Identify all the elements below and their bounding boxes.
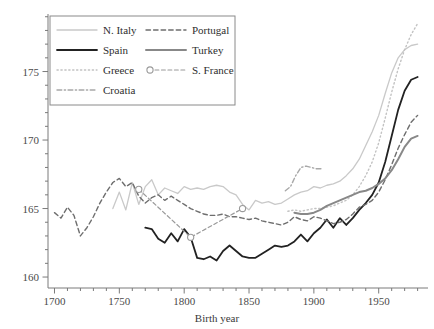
series-line: [54, 115, 417, 236]
x-tick-label: 1750: [108, 295, 131, 307]
legend-label: S. France: [192, 64, 234, 76]
x-axis-title: Birth year: [195, 312, 240, 324]
chart-container: 160165170175 170017501800185019001950 N.…: [0, 0, 434, 329]
legend-label: Portugal: [192, 24, 229, 36]
y-tick-label: 175: [23, 66, 40, 78]
x-tick-label: 1950: [368, 295, 391, 307]
legend-marker-icon: [147, 67, 153, 73]
x-tick-label: 1800: [173, 295, 196, 307]
series-greece: [288, 24, 418, 212]
legend-label: Turkey: [192, 44, 224, 56]
x-tick-label: 1850: [238, 295, 261, 307]
line-chart: 160165170175 170017501800185019001950 N.…: [0, 0, 434, 329]
y-tick-label: 160: [23, 271, 40, 283]
legend-label: Spain: [103, 44, 129, 56]
legend-label: Greece: [103, 64, 134, 76]
chart-legend: N. ItalyPortugalSpainTurkeyGreeceS. Fran…: [50, 16, 235, 105]
series-portugal: [54, 115, 417, 236]
y-tick-label: 165: [23, 203, 40, 215]
x-axis: 170017501800185019001950: [43, 288, 428, 307]
legend-label: Croatia: [103, 84, 135, 96]
y-tick-label: 170: [23, 134, 40, 146]
x-tick-label: 1700: [43, 295, 66, 307]
legend-label: N. Italy: [103, 24, 137, 36]
series-marker: [188, 234, 194, 240]
x-tick-label: 1900: [303, 295, 326, 307]
series-s-france: [136, 186, 246, 240]
series-line: [288, 24, 418, 212]
y-axis: 160165170175: [23, 14, 49, 288]
series-marker: [136, 186, 142, 192]
series-marker: [239, 205, 245, 211]
